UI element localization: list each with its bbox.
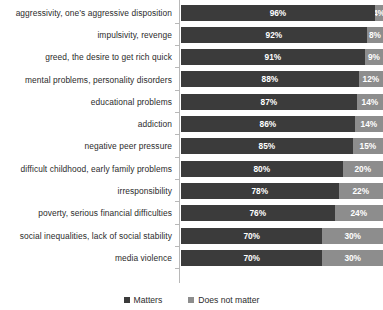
bar-segment-matters[interactable]: 86%	[181, 116, 355, 132]
category-label: educational problems	[0, 97, 172, 107]
category-label: negative peer pressure	[0, 141, 172, 151]
category-label: media violence	[0, 253, 172, 263]
bar-track: 80%20%	[181, 161, 383, 177]
category-label: greed, the desire to get rich quick	[0, 52, 172, 62]
bar-segment-does-not-matter[interactable]: 14%	[355, 116, 383, 132]
bar-row[interactable]: greed, the desire to get rich quick91%9%	[0, 46, 383, 68]
bar-segment-does-not-matter[interactable]: 8%	[367, 27, 383, 43]
category-label: difficult childhood, early family proble…	[0, 164, 172, 174]
bar-row[interactable]: negative peer pressure85%15%	[0, 135, 383, 157]
plot-area: aggressivity, one’s aggressive dispositi…	[0, 0, 383, 287]
bar-segment-matters[interactable]: 70%	[181, 250, 322, 266]
bar-segment-does-not-matter[interactable]: 30%	[322, 250, 383, 266]
bar-row[interactable]: media violence70%30%	[0, 247, 383, 269]
bar-track: 78%22%	[181, 183, 383, 199]
bar-segment-matters[interactable]: 96%	[181, 5, 375, 21]
bar-track: 86%14%	[181, 116, 383, 132]
bar-track: 88%12%	[181, 71, 383, 87]
bar-row[interactable]: addiction86%14%	[0, 113, 383, 135]
bar-row[interactable]: mental problems, personality disorders88…	[0, 68, 383, 90]
legend-entry[interactable]: Does not matter	[188, 295, 259, 305]
bar-segment-does-not-matter[interactable]: 12%	[359, 71, 383, 87]
chart-legend: MattersDoes not matter	[0, 293, 383, 307]
bar-segment-does-not-matter[interactable]: 4%	[375, 5, 383, 21]
bar-segment-matters[interactable]: 85%	[181, 138, 353, 154]
bar-track: 96%4%	[181, 5, 383, 21]
bar-segment-does-not-matter[interactable]: 30%	[322, 228, 383, 244]
matters-swatch-icon	[124, 297, 130, 303]
bar-segment-matters[interactable]: 87%	[181, 94, 357, 110]
legend-label: Does not matter	[198, 295, 259, 305]
bar-segment-matters[interactable]: 80%	[181, 161, 343, 177]
category-label: irresponsibility	[0, 186, 172, 196]
bar-segment-matters[interactable]: 92%	[181, 27, 367, 43]
bar-track: 70%30%	[181, 250, 383, 266]
bar-track: 92%8%	[181, 27, 383, 43]
stacked-bar-chart: aggressivity, one’s aggressive dispositi…	[0, 0, 383, 310]
category-label: aggressivity, one’s aggressive dispositi…	[0, 8, 172, 18]
bar-segment-matters[interactable]: 76%	[181, 205, 335, 221]
category-label: social inequalities, lack of social stab…	[0, 231, 172, 241]
bar-row[interactable]: aggressivity, one’s aggressive dispositi…	[0, 2, 383, 24]
bar-segment-matters[interactable]: 88%	[181, 71, 359, 87]
bar-track: 76%24%	[181, 205, 383, 221]
category-label: mental problems, personality disorders	[0, 75, 172, 85]
bar-segment-does-not-matter[interactable]: 14%	[357, 94, 383, 110]
bar-track: 87%14%	[181, 94, 383, 110]
bar-track: 91%9%	[181, 49, 383, 65]
category-label: poverty, serious financial difficulties	[0, 208, 172, 218]
category-label: impulsivity, revenge	[0, 30, 172, 40]
bar-segment-matters[interactable]: 70%	[181, 228, 322, 244]
bar-row[interactable]: poverty, serious financial difficulties7…	[0, 202, 383, 224]
legend-label: Matters	[134, 295, 163, 305]
bar-segment-does-not-matter[interactable]: 24%	[335, 205, 383, 221]
bar-row[interactable]: impulsivity, revenge92%8%	[0, 24, 383, 46]
bar-row[interactable]: educational problems87%14%	[0, 91, 383, 113]
does-not-matter-swatch-icon	[188, 297, 194, 303]
bar-segment-does-not-matter[interactable]: 22%	[339, 183, 383, 199]
bar-track: 85%15%	[181, 138, 383, 154]
bar-segment-matters[interactable]: 78%	[181, 183, 339, 199]
bar-segment-matters[interactable]: 91%	[181, 49, 365, 65]
category-label: addiction	[0, 119, 172, 129]
bar-track: 70%30%	[181, 228, 383, 244]
legend-entry[interactable]: Matters	[124, 295, 163, 305]
bar-row[interactable]: irresponsibility78%22%	[0, 180, 383, 202]
bar-segment-does-not-matter[interactable]: 15%	[353, 138, 383, 154]
bar-row[interactable]: difficult childhood, early family proble…	[0, 158, 383, 180]
bar-row[interactable]: social inequalities, lack of social stab…	[0, 225, 383, 247]
bar-segment-does-not-matter[interactable]: 9%	[365, 49, 383, 65]
bar-segment-does-not-matter[interactable]: 20%	[343, 161, 383, 177]
